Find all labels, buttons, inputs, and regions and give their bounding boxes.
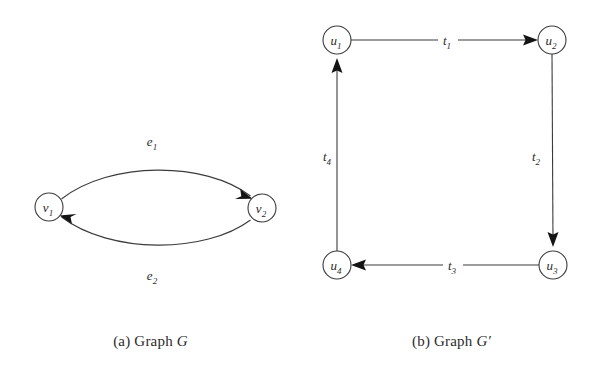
- edge-t1: t1: [351, 30, 538, 51]
- panel-graph-g-prime: t1 t2 t3 t4: [301, 0, 602, 380]
- caption-b-prime: ′: [488, 333, 491, 349]
- node-v1: v1: [35, 193, 63, 221]
- node-v2: v2: [248, 194, 276, 222]
- edge-t2-label: t2: [532, 149, 541, 167]
- graph-g-diagram: e1 e2 v1 v2: [0, 0, 301, 330]
- edge-e1-path: [62, 170, 251, 199]
- graph-g-prime-diagram: t1 t2 t3 t4: [301, 0, 602, 330]
- edge-t4-label: t4: [323, 149, 332, 167]
- edge-t2: t2: [532, 54, 559, 247]
- edge-e1-arrowhead: [235, 189, 253, 199]
- caption-b-prefix: (b) Graph: [412, 333, 476, 349]
- caption-graph-g: (a) Graph G: [0, 333, 301, 350]
- node-u2: u2: [538, 26, 566, 54]
- edge-e1: e1: [62, 134, 253, 199]
- caption-a-graph-name: G: [177, 333, 188, 349]
- caption-a-prefix: (a) Graph: [113, 333, 177, 349]
- edge-e2-arrowhead: [60, 214, 77, 224]
- edge-e2-label: e2: [147, 268, 158, 286]
- node-u4: u4: [323, 251, 351, 279]
- edge-t4: t4: [323, 58, 343, 251]
- panel-graph-g: e1 e2 v1 v2 (a) Graph G: [0, 0, 301, 380]
- edge-t3: t3: [351, 255, 539, 276]
- edge-e1-label: e1: [147, 134, 157, 152]
- edge-e2: e2: [60, 214, 251, 286]
- edge-t2-line: [552, 54, 553, 243]
- figure-container: e1 e2 v1 v2 (a) Graph G: [0, 0, 602, 380]
- caption-b-graph-name: G: [476, 333, 487, 349]
- caption-graph-g-prime: (b) Graph G′: [301, 333, 602, 350]
- edge-e2-path: [62, 217, 251, 245]
- node-u3: u3: [539, 251, 567, 279]
- node-u1: u1: [323, 26, 351, 54]
